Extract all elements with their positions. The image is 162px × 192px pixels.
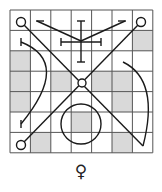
shaded-cell: [10, 51, 30, 71]
shaded-cell: [10, 71, 30, 91]
end-circle-top-right: [137, 18, 146, 27]
venus-symbol: ♀: [0, 160, 162, 182]
shaded-cell: [92, 71, 112, 91]
shaded-cell: [112, 132, 132, 152]
shaded-cell: [112, 92, 132, 112]
shaded-cell: [10, 92, 30, 112]
center-node-circle: [78, 79, 86, 87]
shaded-cell: [71, 112, 91, 132]
shaded-cell: [132, 30, 152, 50]
v-line-left: [37, 21, 81, 41]
shaded-cell: [112, 71, 132, 91]
end-circle-top-left: [17, 18, 26, 27]
v-line-right: [81, 21, 125, 41]
end-circle-bottom-left: [17, 141, 26, 150]
shaded-cell: [30, 132, 50, 152]
shaded-cell: [51, 71, 71, 91]
